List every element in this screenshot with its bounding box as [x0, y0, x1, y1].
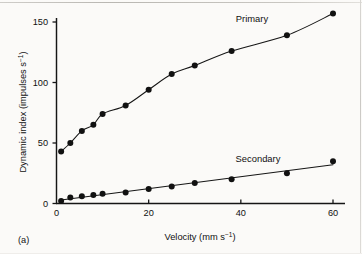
- data-point: [67, 140, 73, 146]
- x-axis-title-text: Velocity (mm s: [164, 232, 225, 242]
- data-point: [79, 128, 85, 134]
- y-axis-tick-labels: 050100150: [33, 17, 48, 209]
- data-point: [169, 184, 175, 190]
- data-point: [90, 122, 96, 128]
- data-point: [146, 87, 152, 93]
- data-point: [90, 192, 96, 198]
- x-tick-label-20: 20: [144, 208, 154, 218]
- y-tick-label-0: 0: [43, 199, 48, 209]
- x-tick-label-60: 60: [328, 208, 338, 218]
- data-point: [229, 176, 235, 182]
- figure-panel: 050100150 0204060 Velocity (mm s−1) Dyna…: [0, 0, 362, 254]
- svg-text:Velocity (mm s−1): Velocity (mm s−1): [164, 231, 235, 243]
- series-label-secondary: Secondary: [236, 153, 281, 164]
- x-tick-label-40: 40: [236, 208, 246, 218]
- data-point: [330, 158, 336, 164]
- data-point: [192, 63, 198, 69]
- axis-lines: [56, 18, 345, 204]
- data-point: [229, 48, 235, 54]
- data-point: [284, 170, 290, 176]
- series-fit-curves: [61, 14, 333, 200]
- data-points-secondary: [58, 158, 336, 204]
- y-tick-label-100: 100: [33, 78, 48, 88]
- y-axis-title: Dynamic index (impulses s−1): [17, 51, 29, 172]
- series-label-primary: Primary: [236, 13, 269, 24]
- fit-curve-primary: [61, 14, 333, 152]
- x-tick-label-0: 0: [54, 208, 59, 218]
- x-axis-tick-labels: 0204060: [54, 208, 338, 218]
- x-axis-title: Velocity (mm s−1): [164, 231, 235, 243]
- x-axis-title-tail: ): [232, 232, 235, 242]
- data-point: [79, 193, 85, 199]
- data-point: [100, 111, 106, 117]
- y-tick-label-50: 50: [38, 138, 48, 148]
- y-tick-label-150: 150: [33, 17, 48, 27]
- data-point: [58, 148, 64, 154]
- data-point: [192, 180, 198, 186]
- data-point: [284, 32, 290, 38]
- data-point: [123, 102, 129, 108]
- data-point: [330, 11, 336, 17]
- data-point: [146, 186, 152, 192]
- data-point: [67, 194, 73, 200]
- data-point: [100, 191, 106, 197]
- y-axis-title-tail: ): [18, 51, 28, 54]
- panel-label: (a): [18, 235, 29, 245]
- chart-canvas: 050100150 0204060 Velocity (mm s−1) Dyna…: [0, 0, 362, 254]
- svg-text:Dynamic index (impulses s−1): Dynamic index (impulses s−1): [17, 51, 29, 172]
- data-point: [58, 198, 64, 204]
- data-point: [123, 190, 129, 196]
- series-data-points: [58, 11, 336, 205]
- y-axis-title-text: Dynamic index (impulses s: [18, 62, 28, 173]
- data-point: [169, 71, 175, 77]
